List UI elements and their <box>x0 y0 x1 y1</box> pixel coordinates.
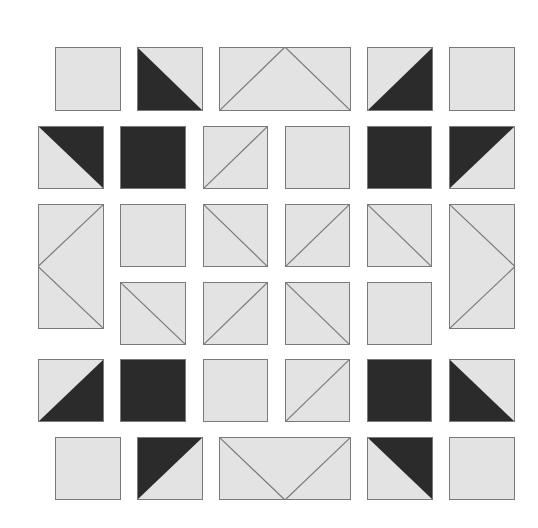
quilt-tile-plain <box>203 359 268 422</box>
quilt-tile-solid-dark <box>120 126 186 189</box>
quilt-tile-half-dark-tr <box>367 437 433 500</box>
quilt-tile-plain <box>120 204 186 267</box>
quilt-tile-plain <box>367 282 432 345</box>
quilt-tile-plain <box>55 47 121 111</box>
quilt-tile-half-dark-tl <box>137 437 203 500</box>
quilt-tile-peak-down <box>219 437 351 500</box>
quilt-tile-half-dark-tl <box>449 126 515 189</box>
quilt-tile-half-dark-tr <box>38 126 104 189</box>
quilt-tile-half-dark-bl <box>137 47 203 111</box>
quilt-tile-plain <box>449 47 515 111</box>
quilt-tile-line-tl-br <box>203 204 268 267</box>
quilt-tile-peak-right <box>449 204 515 329</box>
quilt-tile-line-bl-tr <box>203 126 268 189</box>
quilt-tile-solid-dark <box>367 359 432 422</box>
quilt-tile-half-dark-br <box>367 47 433 111</box>
quilt-tile-plain <box>55 437 121 500</box>
quilt-tile-plain <box>285 126 350 189</box>
quilt-tile-solid-dark <box>367 126 432 189</box>
quilt-tile-solid-dark <box>120 359 186 422</box>
quilt-tile-line-bl-tr <box>285 204 350 267</box>
quilt-pattern <box>0 0 538 528</box>
quilt-tile-half-dark-bl <box>449 359 515 422</box>
quilt-tile-line-tl-br <box>285 282 350 345</box>
quilt-tile-line-tl-br <box>120 282 186 345</box>
quilt-tile-plain <box>449 437 515 500</box>
quilt-tile-line-bl-tr <box>285 359 350 422</box>
quilt-tile-peak-up <box>219 47 351 111</box>
quilt-tile-peak-left <box>38 204 104 329</box>
quilt-tile-line-tl-br <box>367 204 432 267</box>
quilt-tile-line-bl-tr <box>203 282 268 345</box>
quilt-tile-half-dark-br <box>38 359 104 422</box>
